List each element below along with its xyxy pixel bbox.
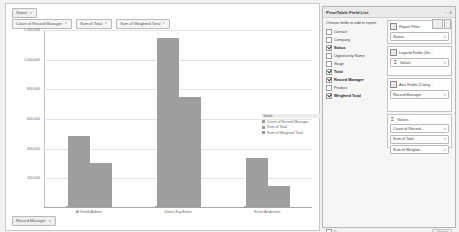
zone-chip-status[interactable]: Status ▾ xyxy=(390,32,449,41)
page-filter-label: Status xyxy=(16,9,27,17)
chevron-down-icon: ▾ xyxy=(444,61,446,65)
field-label: Record Manager xyxy=(334,78,364,82)
zone-chip-record-manager[interactable]: Record Manager ▾ xyxy=(390,90,449,99)
chip-label: Status xyxy=(393,35,404,39)
legend-title: Totals xyxy=(262,114,322,118)
zone-chip-values[interactable]: Σ Values ▾ xyxy=(390,58,449,67)
chevron-down-icon: ▾ xyxy=(444,137,446,141)
bar[interactable] xyxy=(157,38,179,207)
field-checkbox[interactable] xyxy=(326,93,332,99)
chevron-down-icon: ▾ xyxy=(30,9,32,17)
y-axis-tick-label: 800,000 xyxy=(6,87,40,91)
zone-legend-fields[interactable]: Legend Fields (Se... Σ Values ▾ xyxy=(387,46,452,76)
legend-item: Sum of Weighted Total xyxy=(262,131,322,135)
field-label: Product xyxy=(334,86,347,90)
field-list-item[interactable]: Status xyxy=(326,44,383,52)
pivotchart-pane: Status ▾ Count of Record Manager ▾ Sum o… xyxy=(5,3,320,231)
legend-label: Sum of Weighted Total xyxy=(267,131,303,135)
value-field-label: Sum of Total xyxy=(80,20,102,28)
chevron-down-icon[interactable] xyxy=(444,19,451,29)
field-label: Contact xyxy=(334,30,347,34)
bar[interactable] xyxy=(68,136,90,207)
page-filter-button[interactable]: Status ▾ xyxy=(12,8,37,18)
field-checkbox[interactable] xyxy=(326,69,332,75)
update-button[interactable]: Update xyxy=(432,229,452,232)
field-checkbox[interactable] xyxy=(326,53,332,59)
field-list-item[interactable]: Record Manager xyxy=(326,76,383,84)
value-field-button-total[interactable]: Sum of Total ▾ xyxy=(76,19,112,29)
value-field-button-weighted[interactable]: Sum of Weighted Total ▾ xyxy=(116,19,170,29)
zone-values[interactable]: Σ Values Count of Record...▾Sum of Total… xyxy=(387,114,452,148)
legend-item: Count of Record Manager xyxy=(262,120,322,124)
chevron-down-icon: ▾ xyxy=(49,217,51,225)
zone-chip-value[interactable]: Sum of Total▾ xyxy=(390,135,449,144)
drop-zones: Report Filter Status ▾ Legend Fields (Se… xyxy=(385,18,455,227)
chevron-down-icon: ▾ xyxy=(105,20,107,28)
chevron-down-icon: ▾ xyxy=(65,20,67,28)
axis-field-row: Record Manager ▾ xyxy=(12,216,56,226)
field-list-footer: D... Update xyxy=(323,227,455,232)
legend-label: Count of Record Manager xyxy=(267,120,308,124)
sigma-icon: Σ xyxy=(393,60,398,65)
legend-fields-icon xyxy=(390,49,397,56)
report-filter-row: Status ▾ xyxy=(12,8,37,16)
bar[interactable] xyxy=(268,186,290,207)
field-label: Total xyxy=(334,70,343,74)
field-label: Status xyxy=(334,46,346,50)
legend-swatch xyxy=(262,131,265,134)
sigma-icon: Σ xyxy=(390,117,395,122)
axis-fields-icon xyxy=(390,81,397,88)
bar[interactable] xyxy=(90,163,112,208)
field-checkbox[interactable] xyxy=(326,45,332,51)
field-list-item[interactable]: Stage xyxy=(326,60,383,68)
y-axis-tick-label: 400,000 xyxy=(6,147,40,151)
field-list-item[interactable]: Weighted Total xyxy=(326,92,383,100)
chip-label: Count of Record... xyxy=(393,127,424,131)
field-label: Company xyxy=(334,38,350,42)
field-list-item[interactable]: Company xyxy=(326,36,383,44)
x-axis-category-label: Dinna Kauffman xyxy=(133,210,222,214)
field-list-item[interactable]: Product xyxy=(326,84,383,92)
field-list-item[interactable]: Contact xyxy=(326,28,383,36)
field-list-item[interactable]: Opportunity Name xyxy=(326,52,383,60)
chevron-down-icon: ▾ xyxy=(444,35,446,39)
zone-chip-value[interactable]: Sum of Weighte...▾ xyxy=(390,145,449,154)
defer-layout-update-label: D... xyxy=(334,230,340,232)
bar[interactable] xyxy=(246,158,268,207)
field-checkbox[interactable] xyxy=(326,61,332,67)
field-label: Stage xyxy=(334,62,344,66)
zone-title: Axis Fields (Categ... xyxy=(399,83,433,87)
bar-group xyxy=(44,30,133,207)
field-list-item[interactable]: Total xyxy=(326,68,383,76)
axis-field-label: Record Manager xyxy=(16,217,46,225)
chevron-down-icon: ▾ xyxy=(444,127,446,131)
field-label: Weighted Total xyxy=(334,94,361,98)
close-icon[interactable]: ✕ xyxy=(449,10,452,15)
axis-field-button-record-manager[interactable]: Record Manager ▾ xyxy=(12,216,56,226)
legend-item: Sum of Total xyxy=(262,125,322,129)
choose-fields-label: Choose fields to add to report: xyxy=(326,21,383,26)
field-checkbox[interactable] xyxy=(326,77,332,83)
bar[interactable] xyxy=(179,97,201,207)
field-checkbox[interactable] xyxy=(326,85,332,91)
y-axis-tick-label: 200,000 xyxy=(6,176,40,180)
minimize-icon[interactable]: − xyxy=(445,10,447,15)
chip-label: Record Manager xyxy=(393,93,421,97)
field-list-titlebar: PivotTable Field List − ✕ xyxy=(323,7,455,18)
chevron-down-icon: ▾ xyxy=(444,148,446,152)
x-axis-category-label: Ernst Anderson xyxy=(223,210,312,214)
chart-legend: Totals Count of Record ManagerSum of Tot… xyxy=(262,114,322,135)
layout-options-button[interactable] xyxy=(432,19,443,29)
y-axis-tick-label: 1,000,000 xyxy=(6,58,40,62)
chip-label: Sum of Total xyxy=(393,137,414,141)
x-axis-line xyxy=(44,207,312,208)
field-label: Opportunity Name xyxy=(334,54,365,58)
x-axis-category-labels: Al Smith/AdminDinna KauffmanErnst Anders… xyxy=(44,210,312,214)
defer-layout-update-checkbox[interactable] xyxy=(326,229,332,232)
pivottable-field-list-panel: PivotTable Field List − ✕ Choose fields … xyxy=(322,6,456,228)
value-field-label: Count of Record Manager xyxy=(16,20,62,28)
field-checkbox[interactable] xyxy=(326,29,332,35)
zone-chip-value[interactable]: Count of Record...▾ xyxy=(390,124,449,133)
field-checkbox[interactable] xyxy=(326,37,332,43)
zone-axis-fields[interactable]: Axis Fields (Categ... Record Manager ▾ xyxy=(387,78,452,112)
